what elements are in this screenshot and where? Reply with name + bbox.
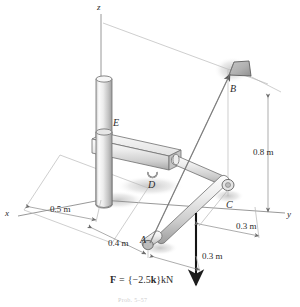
force-unit: kN — [161, 274, 173, 285]
dimension-0-3m-upper-label: 0.3 m — [236, 222, 257, 231]
z-axis-label: z — [97, 3, 101, 12]
dimension-0-3m-lower-label: 0.3 m — [202, 252, 223, 261]
point-d-label: D — [148, 180, 155, 190]
point-a-label: A — [140, 235, 146, 245]
force-expression: {−2.5k} — [128, 274, 161, 285]
point-b-label: B — [230, 84, 236, 94]
force-label: F={−2.5k}kN — [110, 275, 173, 285]
collar-e — [96, 129, 112, 208]
dimension-0-8m-label: 0.8 m — [253, 148, 274, 157]
force-symbol: F — [110, 274, 116, 285]
point-e-label: E — [113, 118, 119, 128]
point-c-label: C — [226, 200, 233, 210]
dimension-0-4m-label: 0.4 m — [108, 239, 129, 248]
figure-caption: Prob. 5–57 — [118, 297, 147, 303]
x-axis-label: x — [5, 209, 9, 218]
figure-canvas: z x y A B C D E 0.5 m 0.4 m 0.8 m 0.3 m … — [0, 0, 300, 307]
dimension-0-5m-label: 0.5 m — [50, 205, 71, 214]
y-axis-label: y — [287, 210, 291, 219]
force-equals: = — [119, 274, 125, 285]
